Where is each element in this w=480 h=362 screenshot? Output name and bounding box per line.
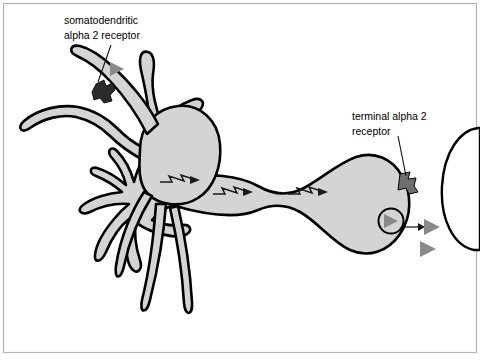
label-terminal-line1: terminal alpha 2 xyxy=(352,110,427,122)
label-terminal-line2: receptor xyxy=(352,125,391,137)
label-somatodendritic-line1: somatodendritic xyxy=(64,14,138,26)
diagram-canvas: somatodendritic alpha 2 receptor termina… xyxy=(0,0,480,362)
label-somatodendritic-line2: alpha 2 receptor xyxy=(64,29,140,41)
neuron-diagram: somatodendritic alpha 2 receptor termina… xyxy=(0,0,480,362)
synaptic-vesicle xyxy=(379,209,404,234)
